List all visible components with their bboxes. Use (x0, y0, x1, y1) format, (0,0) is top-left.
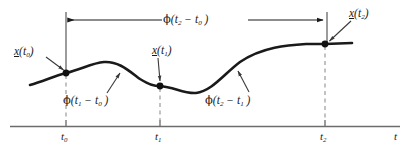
phi-10-minus: − t (81, 94, 98, 106)
tick-label-t1: t1 (155, 131, 161, 144)
phi-20-minus: − t (181, 13, 198, 25)
state-trajectory-figure: x(t0) x(t1) x(t2) ϕ(t2 − t0 ) ϕ(t1 − t0 … (0, 0, 412, 151)
tick-label-t0: t0 (61, 131, 67, 144)
phi-symbol-21: ϕ (205, 93, 213, 107)
label-x-t1-close: ) (168, 44, 172, 56)
label-phi-t2-t0: ϕ(t2 − t0 ) (163, 14, 208, 27)
phi-21-minus: − t (223, 94, 240, 106)
leader-x-t1 (158, 58, 160, 81)
phi-10-close: ) (102, 94, 109, 106)
axis-label-t: t (394, 131, 397, 142)
tick-t1-sub: 1 (158, 136, 161, 143)
label-state-x-t2: x(t2) (349, 8, 369, 21)
label-x-t2-close: ) (365, 7, 369, 19)
tick-label-t2: t2 (320, 131, 326, 144)
label-x-t0-close: ) (30, 45, 34, 57)
leader-x-t2 (330, 21, 352, 41)
tick-t2-sub: 2 (323, 136, 326, 143)
phi-symbol-20: ϕ (163, 12, 171, 26)
leader-x-t0 (46, 57, 64, 70)
leader-phi-t1-t0 (107, 73, 120, 93)
label-phi-t1-t0: ϕ(t1 − t0 ) (63, 95, 108, 108)
point-x-t2 (322, 41, 329, 48)
phi-20-close: ) (202, 13, 209, 25)
leader-phi-t2-t1 (238, 71, 249, 92)
point-x-t1 (157, 83, 164, 90)
label-phi-t2-t1: ϕ(t2 − t1 ) (205, 95, 250, 108)
label-state-x-t1: x(t1) (152, 45, 172, 58)
phi-21-close: ) (244, 94, 251, 106)
phi-10-open: (t (71, 94, 78, 106)
phi-21-open: (t (213, 94, 220, 106)
tick-t0-sub: 0 (64, 136, 67, 143)
trajectory-curve (30, 43, 352, 93)
phi-symbol-10: ϕ (63, 93, 71, 107)
point-x-t0 (63, 70, 70, 77)
label-state-x-t0: x(t0) (14, 46, 34, 59)
phi-20-open: (t (171, 13, 178, 25)
